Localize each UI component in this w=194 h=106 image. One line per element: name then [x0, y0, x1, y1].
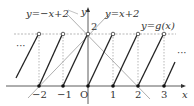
x-axis-arrow-icon [181, 84, 186, 88]
x-tick-label: 1 [110, 89, 116, 100]
label-y-axis: y [80, 6, 87, 17]
label-x-axis: x [182, 89, 188, 100]
x-tick-label: 2 [135, 89, 141, 100]
ellipsis-right: ··· [177, 47, 187, 58]
label-line-neg: y=−x+2 [25, 8, 69, 19]
label-line-pos: y=x+2 [104, 8, 139, 19]
ellipsis-left: ··· [16, 40, 26, 51]
x-tick-label: −1 [57, 89, 72, 100]
graph-diagram: y=−x+2 y=x+2 y=g(x) y x 2 O ··· ··· −2 −… [0, 0, 194, 106]
leader-neg [68, 10, 78, 14]
label-g: y=g(x) [140, 20, 175, 31]
label-y-tick-2: 2 [91, 21, 97, 32]
x-tick-label: 3 [161, 89, 167, 100]
dashed-verticals [39, 34, 164, 86]
x-tick-label: −2 [32, 89, 47, 100]
label-origin: O [80, 89, 88, 100]
